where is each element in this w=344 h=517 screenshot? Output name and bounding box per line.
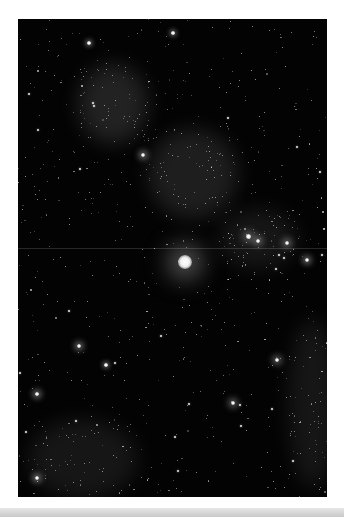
star — [246, 405, 247, 406]
star — [182, 307, 183, 308]
star — [186, 470, 187, 471]
star — [208, 480, 209, 481]
star — [269, 30, 270, 31]
star — [208, 221, 209, 222]
star — [251, 70, 252, 71]
star — [85, 199, 86, 200]
star — [98, 212, 99, 213]
star — [162, 231, 163, 232]
star — [246, 430, 247, 431]
star — [292, 210, 293, 211]
star — [144, 134, 145, 135]
star — [23, 461, 24, 462]
star — [324, 228, 325, 229]
star — [281, 301, 282, 302]
left-mid-star — [77, 344, 81, 348]
star — [135, 100, 136, 101]
star — [96, 126, 97, 127]
star — [53, 259, 54, 260]
star — [148, 120, 149, 121]
star — [189, 73, 190, 74]
star — [312, 184, 313, 185]
star — [126, 363, 127, 364]
star — [67, 464, 68, 465]
star — [152, 273, 153, 274]
star — [319, 489, 320, 490]
star — [252, 26, 253, 27]
star — [92, 405, 93, 406]
star — [183, 44, 184, 45]
star — [25, 157, 26, 158]
star — [18, 309, 19, 310]
star — [268, 367, 269, 368]
upper-left-nebula — [78, 64, 148, 144]
star — [228, 233, 229, 234]
star — [207, 437, 208, 438]
star — [287, 211, 288, 212]
star — [120, 330, 121, 331]
star — [148, 287, 149, 288]
star — [42, 426, 43, 427]
star — [40, 168, 41, 169]
star — [319, 130, 320, 131]
star — [55, 317, 56, 318]
star — [68, 310, 70, 312]
star — [298, 238, 299, 239]
star — [148, 19, 149, 20]
star — [223, 58, 224, 59]
star — [114, 362, 116, 364]
central-bright-star — [178, 255, 192, 269]
star — [173, 243, 174, 244]
star — [74, 464, 75, 465]
star — [133, 489, 134, 490]
star — [233, 463, 234, 464]
star — [145, 327, 146, 328]
star — [185, 410, 186, 411]
star — [313, 36, 314, 37]
star — [81, 72, 82, 73]
star — [18, 168, 19, 169]
star — [71, 380, 72, 381]
star — [146, 311, 147, 312]
star — [177, 470, 179, 472]
right-star-2 — [305, 258, 309, 262]
star — [289, 359, 290, 360]
star — [177, 460, 178, 461]
star — [129, 431, 130, 432]
star — [240, 211, 241, 212]
star — [191, 322, 192, 323]
star — [173, 480, 174, 481]
star — [317, 158, 318, 159]
star — [114, 318, 115, 319]
upper-center-star — [171, 31, 175, 35]
star — [272, 365, 273, 366]
star — [251, 313, 252, 314]
star — [22, 205, 23, 206]
star — [144, 257, 145, 258]
star — [141, 449, 142, 450]
star — [80, 265, 81, 266]
star — [168, 490, 169, 491]
page — [0, 0, 344, 517]
star — [87, 384, 88, 385]
star — [289, 356, 290, 357]
star — [251, 193, 252, 194]
star — [215, 471, 216, 472]
star — [242, 245, 243, 246]
star — [166, 36, 167, 37]
star — [299, 136, 300, 137]
star — [129, 98, 130, 99]
star — [42, 281, 43, 282]
star — [107, 312, 108, 313]
star — [278, 328, 279, 329]
star — [317, 178, 318, 179]
star — [286, 397, 287, 398]
star — [143, 136, 144, 137]
star — [264, 254, 265, 255]
star — [197, 292, 198, 293]
star — [233, 369, 234, 370]
star — [108, 179, 109, 180]
star — [271, 408, 273, 410]
star — [158, 31, 159, 32]
star — [132, 78, 133, 79]
